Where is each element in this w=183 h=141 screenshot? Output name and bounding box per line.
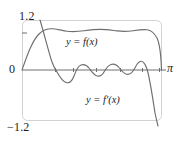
curve-f-prime: [40, 20, 158, 126]
y-axis-max-label: 1.2: [19, 10, 35, 22]
curve-f-prime-annotation: y = f′(x): [86, 94, 120, 105]
x-axis-pi-label: π: [167, 62, 173, 74]
function-graph-figure: 1.2 0 −1.2 π y = f(x) y = f′(x): [0, 0, 183, 141]
y-axis-min-label: −1.2: [7, 121, 30, 133]
curve-f: [22, 29, 162, 70]
y-axis-origin-label: 0: [9, 63, 15, 75]
curve-f-annotation: y = f(x): [66, 36, 98, 47]
